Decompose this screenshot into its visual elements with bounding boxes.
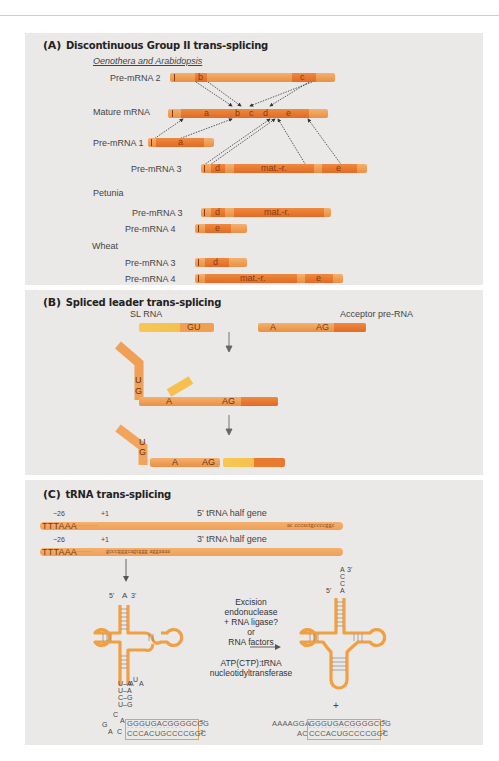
wheat-pre-mrna-4-bar: mat.-r. e: [195, 274, 343, 283]
row-label: Pre-mRNA 4: [125, 274, 176, 284]
top-divider: [0, 15, 499, 16]
cca-c: C: [340, 573, 345, 580]
y-branch-product-bar: A AG: [150, 458, 220, 467]
pre-mrna-3-bar: d mat.-r. e: [201, 164, 367, 173]
branch-g: G: [135, 386, 142, 396]
loop-a: A: [108, 728, 113, 735]
loop-g: G: [102, 721, 107, 728]
right-duplex-bottom: CCCACUGCCCCGGC: [309, 729, 388, 738]
row-label: Mature mRNA: [93, 107, 150, 117]
mature-mrna-bar: a b c d e: [168, 109, 328, 118]
pre-mrna-2-bar: b c: [170, 73, 335, 82]
spliced-leader-diagram: [25, 290, 483, 475]
branch-g: G: [139, 447, 146, 457]
stem-pair: C–G: [118, 694, 132, 701]
row-label: Pre-mRNA 2: [110, 73, 161, 83]
ntase-text: ATP(CTP):tRNA nucleotidyltransferase: [195, 658, 307, 678]
right-5prime: 5': [326, 587, 331, 594]
petunia-pre-mrna-3-bar: d mat.-r.: [201, 208, 331, 217]
trans-spliced-mrna-bar: [223, 458, 285, 467]
panel-a: (A)Discontinuous Group II trans-splicing…: [25, 33, 483, 285]
stem-pair: U–G: [118, 701, 132, 708]
left-acceptor-a: A: [122, 591, 127, 600]
group-label-petunia: Petunia: [93, 188, 124, 198]
loop-aa: A: [129, 680, 134, 687]
left-5prime: 5': [109, 592, 114, 599]
panel-b: (B)Spliced leader trans-splicing SL RNA …: [25, 290, 483, 475]
loop-c: C: [117, 728, 122, 735]
lariat-intermediate-bar: A AG: [139, 397, 278, 406]
row-label: Pre-mRNA 1: [93, 138, 144, 148]
stem-pair: U–A: [118, 687, 132, 694]
row-label: Pre-mRNA 3: [132, 208, 183, 218]
wheat-pre-mrna-3-bar: d: [195, 258, 247, 267]
left-3prime: 3': [131, 592, 136, 599]
plus-sign: +: [333, 700, 339, 711]
right-prefix-top: AAAAGGA: [272, 719, 310, 728]
row-label: Pre-mRNA 3: [125, 258, 176, 268]
petunia-pre-mrna-4-bar: e: [195, 224, 247, 233]
right-3prime: 3': [347, 566, 352, 573]
acceptor-exon: [241, 397, 278, 406]
branch-u: U: [139, 437, 146, 447]
loop-a: A: [120, 717, 125, 724]
row-label: Pre-mRNA 4: [125, 224, 176, 234]
row-label: Pre-mRNA 3: [131, 164, 182, 174]
enzyme-text: Excision endonuclease + RNA ligase? or R…: [201, 597, 301, 647]
panel-c: (C)tRNA trans-splicing −26 +1 5' tRNA ha…: [25, 480, 483, 745]
pre-mrna-1-bar: a: [148, 138, 214, 147]
loop-c: C: [113, 711, 118, 718]
loop-a: A: [139, 680, 144, 687]
cca-c: C: [340, 580, 345, 587]
group-label-wheat: Wheat: [92, 241, 118, 251]
branch-u: U: [135, 375, 142, 385]
cca-a: A: [340, 587, 345, 594]
left-duplex-bottom: CCCACUGCCCCGGC: [127, 729, 206, 738]
cca-a: A: [340, 566, 345, 573]
